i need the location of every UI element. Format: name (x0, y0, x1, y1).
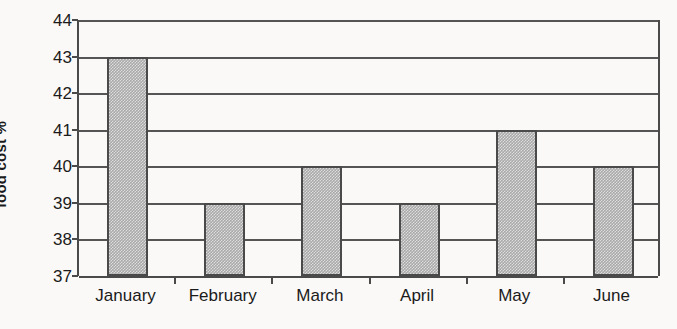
y-tick-label: 37 (44, 268, 72, 285)
gridline (79, 203, 658, 205)
bar (593, 166, 634, 276)
bar (399, 203, 440, 276)
y-tick-label: 38 (44, 231, 72, 248)
x-tick-label: April (400, 286, 434, 306)
gridline (79, 93, 658, 95)
x-tick-label: June (593, 286, 630, 306)
bar (301, 166, 342, 276)
bar-chart: food cost % 3738394041424344 JanuaryFebr… (0, 0, 677, 329)
y-axis-title: food cost % (0, 0, 42, 329)
x-tick-mark (466, 277, 468, 284)
bar (204, 203, 245, 276)
bar (107, 57, 148, 276)
y-tick-label: 39 (44, 194, 72, 211)
x-tick-mark (174, 277, 176, 284)
x-tick-mark (369, 277, 371, 284)
plot-area (77, 20, 660, 276)
x-tick-label: January (95, 286, 155, 306)
x-tick-label: March (296, 286, 343, 306)
gridline (79, 239, 658, 241)
y-tick-label: 43 (44, 48, 72, 65)
x-tick-label: May (498, 286, 530, 306)
y-tick-label: 42 (44, 85, 72, 102)
gridline (79, 166, 658, 168)
y-tick-label: 41 (44, 121, 72, 138)
x-tick-mark (563, 277, 565, 284)
gridline (79, 57, 658, 59)
bar (496, 130, 537, 276)
x-tick-label: February (189, 286, 257, 306)
gridline (79, 130, 658, 132)
y-tick-label: 44 (44, 12, 72, 29)
x-tick-mark (271, 277, 273, 284)
y-tick-label: 40 (44, 158, 72, 175)
gridline (79, 20, 658, 22)
